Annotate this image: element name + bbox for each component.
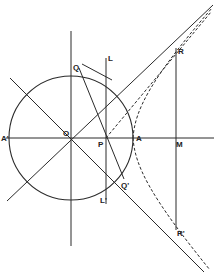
point-label: M (176, 140, 183, 149)
point-label: L (108, 54, 113, 63)
point-label: A' (1, 134, 9, 143)
line-through-O-descending (10, 78, 204, 272)
line-P-to-upper (106, 12, 211, 138)
point-label: Q (73, 63, 79, 72)
point-label: A (136, 134, 142, 143)
point-label: L' (100, 196, 107, 205)
point-label: O (63, 129, 69, 138)
diagram-canvas: QLRA'OPAMQ'L'R' (0, 0, 218, 277)
hyperbola-upper (133, 8, 212, 138)
point-label: R' (177, 229, 185, 238)
geometry-figure: QLRA'OPAMQ'L'R' (0, 0, 218, 277)
asymptote-ascending (7, 5, 213, 201)
point-label: Q' (121, 181, 129, 190)
point-label: R (178, 47, 184, 56)
point-label: P (98, 140, 104, 149)
hyperbola-lower (133, 138, 210, 270)
